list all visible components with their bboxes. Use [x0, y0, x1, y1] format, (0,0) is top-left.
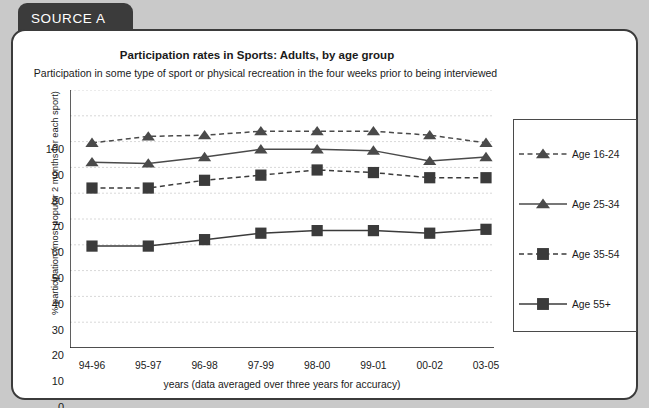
data-point-marker: [255, 170, 266, 181]
legend-marker-icon: [514, 139, 572, 169]
data-point-marker: [368, 225, 379, 236]
data-point-marker: [143, 182, 154, 193]
x-tick-label: 96-98: [175, 360, 235, 371]
y-tick-label: 10: [34, 375, 64, 387]
y-tick-label: 20: [34, 349, 64, 361]
plot-area: % participation (most popular 2 months f…: [70, 90, 494, 348]
data-point-marker: [312, 225, 323, 236]
data-point-marker: [199, 175, 210, 186]
data-point-marker: [312, 164, 323, 175]
data-point-marker: [367, 126, 380, 135]
data-point-marker: [198, 130, 211, 139]
series-2: [85, 144, 492, 168]
data-point-marker: [537, 248, 549, 260]
legend-item-1[interactable]: Age 16-24: [514, 134, 636, 174]
y-tick-label: 40: [34, 298, 64, 310]
series-4: [86, 224, 491, 252]
chart-subtitle: Participation in some type of sport or p…: [13, 67, 636, 79]
legend-marker-icon: [514, 239, 572, 269]
y-tick-label: 100: [34, 143, 64, 155]
data-point-marker: [479, 152, 492, 161]
legend-item-3[interactable]: Age 35-54: [514, 234, 636, 274]
legend: Age 16-24Age 25-34Age 35-54Age 55+: [513, 119, 637, 332]
legend-label: Age 35-54: [572, 249, 620, 260]
plot-svg: [70, 90, 494, 348]
data-point-marker: [143, 240, 154, 251]
legend-label: Age 55+: [572, 299, 611, 310]
x-tick-label: 98-00: [287, 360, 347, 371]
legend-marker-icon: [514, 289, 572, 319]
x-tick-label: 94-96: [62, 360, 122, 371]
y-tick-label: 0: [34, 401, 64, 408]
x-tick-label: 03-05: [456, 360, 516, 371]
data-point-marker: [199, 234, 210, 245]
legend-item-2[interactable]: Age 25-34: [514, 184, 636, 224]
source-tab-label: SOURCE A: [31, 11, 106, 26]
x-axis-label: years (data averaged over three years fo…: [70, 379, 494, 390]
x-tick-label: 97-99: [231, 360, 291, 371]
y-tick-label: 90: [34, 169, 64, 181]
data-point-marker: [424, 228, 435, 239]
y-tick-label: 70: [34, 220, 64, 232]
data-point-marker: [480, 172, 491, 183]
y-tick-label: 30: [34, 324, 64, 336]
data-point-marker: [537, 298, 549, 310]
x-tick-label: 00-02: [400, 360, 460, 371]
x-tick-label: 95-97: [118, 360, 178, 371]
legend-marker-icon: [514, 189, 572, 219]
series-1: [85, 126, 492, 147]
legend-item-4[interactable]: Age 55+: [514, 284, 636, 324]
data-point-marker: [86, 182, 97, 193]
data-point-marker: [255, 228, 266, 239]
series-3: [86, 164, 491, 193]
y-tick-label: 50: [34, 272, 64, 284]
chart-title: Participation rates in Sports: Adults, b…: [13, 49, 636, 61]
legend-label: Age 25-34: [572, 199, 620, 210]
data-point-marker: [368, 167, 379, 178]
data-point-marker: [424, 172, 435, 183]
chart-panel: Participation rates in Sports: Adults, b…: [11, 29, 638, 400]
legend-label: Age 16-24: [572, 149, 620, 160]
y-tick-label: 60: [34, 246, 64, 258]
data-point-marker: [480, 224, 491, 235]
y-tick-label: 80: [34, 195, 64, 207]
x-tick-label: 99-01: [343, 360, 403, 371]
screenshot-root: SOURCE A Participation rates in Sports: …: [0, 0, 649, 408]
data-point-marker: [86, 240, 97, 251]
data-point-marker: [479, 138, 492, 147]
